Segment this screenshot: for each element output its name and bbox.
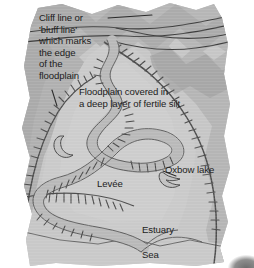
- paper-texture: [0, 0, 254, 268]
- landform-block: [0, 0, 254, 268]
- block-diagram-svg: [0, 0, 254, 268]
- figure-canvas: Cliff line or 'bluff line' which marks t…: [0, 0, 254, 268]
- page-corner-artifact: [228, 255, 254, 268]
